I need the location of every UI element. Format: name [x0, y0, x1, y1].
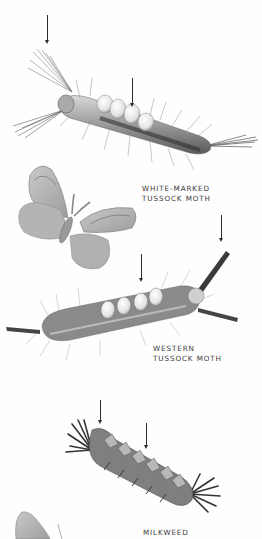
arrow-indicator: [47, 15, 48, 41]
arrow-indicator: [132, 78, 133, 104]
arrow-indicator: [100, 400, 101, 421]
label-line: MILKWEED: [143, 528, 189, 538]
white-marked-tussock-caterpillar: [13, 49, 258, 170]
label-line: TUSSOCK MOTH: [142, 194, 211, 204]
label-line: WESTERN: [153, 344, 222, 354]
species-label-white-marked-tussock-moth: WHITE-MARKED TUSSOCK MOTH: [142, 184, 211, 203]
species-label-western-tussock-moth: WESTERN TUSSOCK MOTH: [153, 344, 222, 363]
field-guide-page: WHITE-MARKED TUSSOCK MOTH WESTERN TUSSOC…: [0, 0, 262, 539]
arrow-indicator: [221, 215, 222, 239]
illustrations: [0, 0, 262, 539]
milkweed-caterpillar: [66, 420, 220, 512]
arrow-indicator: [146, 423, 147, 446]
species-label-milkweed: MILKWEED: [143, 528, 189, 538]
label-line: TUSSOCK MOTH: [153, 354, 222, 364]
milkweed-moth-adult-partial: [16, 512, 62, 539]
white-marked-tussock-moth-adult: [19, 166, 136, 269]
arrow-indicator: [141, 254, 142, 279]
label-line: WHITE-MARKED: [142, 184, 211, 194]
